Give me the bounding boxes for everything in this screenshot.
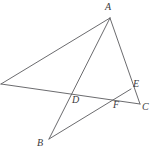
geometry-figure: A B C D E F xyxy=(0,0,158,159)
vertex-label-d: D xyxy=(72,95,79,105)
vertex-label-a: A xyxy=(105,2,111,12)
segment-a-to-c xyxy=(110,18,140,104)
vertex-label-b: B xyxy=(37,138,43,148)
vertex-label-f: F xyxy=(113,100,119,110)
segment-left-to-c xyxy=(1,84,140,104)
vertex-label-e: E xyxy=(133,79,139,89)
vertex-label-c: C xyxy=(142,102,149,112)
